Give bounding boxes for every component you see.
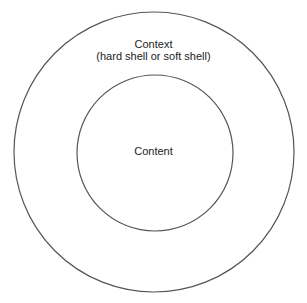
content-label: Content	[0, 145, 307, 157]
context-title: Context	[0, 38, 307, 50]
context-subtitle: (hard shell or soft shell)	[0, 50, 307, 62]
content-title: Content	[0, 145, 307, 157]
context-label: Context (hard shell or soft shell)	[0, 38, 307, 62]
